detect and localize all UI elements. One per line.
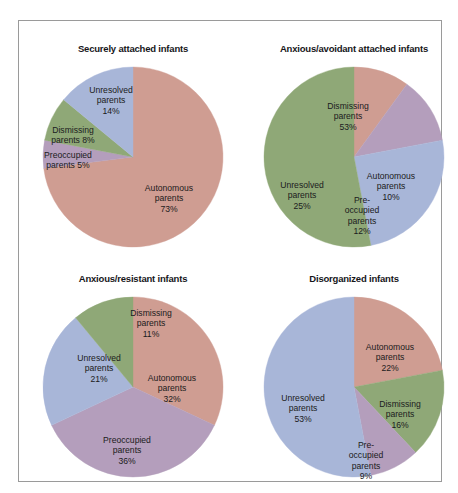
pie-panel-anxious-avoidant: Anxious/avoidant attached infantsAutonom…	[248, 43, 458, 274]
pie-panel-anxious-resistant: Anxious/resistant infantsAutonomousparen…	[27, 273, 239, 493]
pie-title: Disorganized infants	[248, 273, 458, 284]
pie-panel-securely-attached: Securely attached infantsAutonomousparen…	[27, 43, 239, 274]
figure-frame: Securely attached infantsAutonomousparen…	[18, 20, 442, 482]
pie-slices	[27, 59, 239, 259]
pie-panel-disorganized: Disorganized infantsAutonomousparents22%…	[248, 273, 458, 493]
pie-title: Securely attached infants	[27, 43, 239, 54]
pie-chart: Autonomousparents22%Dismissingparents16%…	[248, 289, 458, 489]
pie-title: Anxious/resistant infants	[27, 273, 239, 284]
pie-slices	[248, 59, 458, 259]
pie-chart: Autonomousparents32%Preoccupiedparents36…	[27, 289, 239, 489]
pie-chart: Autonomousparents73%Preoccupiedparents 5…	[27, 59, 239, 259]
pie-slices	[27, 289, 239, 489]
pie-chart: Autonomousparents10%Pre-occupiedparents1…	[248, 59, 458, 259]
pie-title: Anxious/avoidant attached infants	[248, 43, 458, 54]
pie-slices	[248, 289, 458, 489]
figure-canvas: Securely attached infantsAutonomousparen…	[0, 0, 458, 493]
